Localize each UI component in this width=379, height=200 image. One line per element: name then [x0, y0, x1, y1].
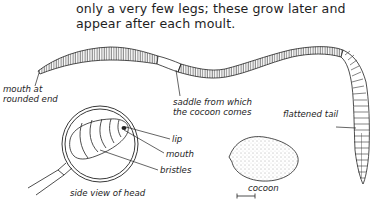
label-side-view-of-head: side view of head: [70, 188, 145, 198]
label-bristles: bristles: [160, 165, 191, 175]
label-flattened-tail: flattened tail: [283, 109, 338, 119]
label-lip: lip: [172, 134, 182, 144]
label-saddle: saddle from which the cocoon comes: [173, 97, 252, 117]
label-mouth: mouth: [166, 149, 194, 159]
label-mouth-at-rounded-end: mouth at rounded end: [3, 84, 58, 104]
magnifying-glass-icon: [28, 106, 170, 195]
label-cocoon: cocoon: [248, 183, 279, 193]
cocoon-drawing: [229, 137, 298, 182]
scale-bar: [237, 194, 255, 199]
